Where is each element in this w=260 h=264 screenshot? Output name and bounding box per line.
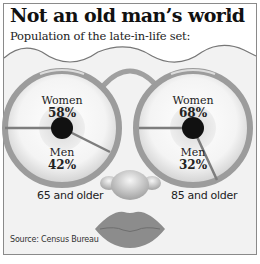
women-pct-85: 68% <box>168 107 218 120</box>
women-label-65: Women 58% <box>37 95 87 120</box>
chart-subtitle: Population of the late-in-life set: <box>10 29 190 43</box>
decorative-mark: ▸ <box>229 9 232 15</box>
men-label-65: Men 42% <box>37 147 87 172</box>
men-label-85: Men 32% <box>168 147 218 172</box>
women-pct-65: 58% <box>37 107 87 120</box>
women-label-85: Women 68% <box>168 95 218 120</box>
men-pct-65: 42% <box>37 159 87 172</box>
age-group-label-65: 65 and older <box>37 189 103 202</box>
nose <box>100 170 161 200</box>
source-note: Source: Census Bureau <box>10 235 99 244</box>
age-group-label-85: 85 and older <box>171 189 237 202</box>
lips <box>95 212 165 248</box>
men-pct-85: 32% <box>168 159 218 172</box>
glasses-bridge <box>103 71 157 86</box>
chart-title: Not an old man’s world <box>10 4 244 26</box>
